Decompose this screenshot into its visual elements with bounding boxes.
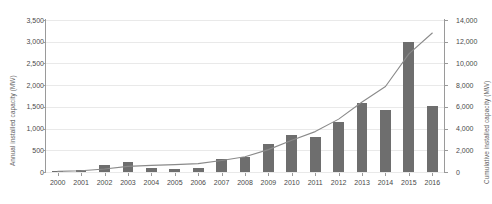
x-axis-tick: 2013	[351, 179, 373, 186]
y-axis-left-tick-mark	[43, 172, 46, 173]
x-axis-tick-mark	[385, 173, 386, 176]
y-axis-left-tick: 1,500	[26, 103, 44, 110]
y-axis-left-tick: 1,000	[26, 125, 44, 132]
x-axis-tick: 2000	[47, 179, 69, 186]
x-axis-tick: 2011	[304, 179, 326, 186]
y-axis-right-tick: 4,000	[456, 125, 474, 132]
y-axis-left-tick-mark	[43, 129, 46, 130]
y-axis-left-tick-mark	[43, 85, 46, 86]
y-axis-right-tick: 8,000	[456, 82, 474, 89]
y-axis-right-tick-labels: 02,0004,0006,0008,00010,00012,00014,000	[448, 0, 482, 204]
x-axis-tick: 2010	[281, 179, 303, 186]
x-axis-tick-mark	[105, 173, 106, 176]
y-axis-left-tick: 3,000	[26, 38, 44, 45]
y-axis-right-title: Cumulative installed capacity (MW)	[483, 81, 490, 184]
x-axis-tick-mark	[339, 173, 340, 176]
y-axis-right-tick-mark	[445, 107, 448, 108]
x-axis-tick-mark	[292, 173, 293, 176]
x-axis-tick: 2003	[117, 179, 139, 186]
x-axis-tick: 2004	[140, 179, 162, 186]
y-axis-left-tick: 2,500	[26, 60, 44, 67]
x-axis-tick: 2007	[211, 179, 233, 186]
x-axis-tick-mark	[362, 173, 363, 176]
x-axis-tick: 2006	[187, 179, 209, 186]
x-axis-tick: 2005	[164, 179, 186, 186]
y-axis-right-tick-mark	[445, 63, 448, 64]
x-axis-tick-mark	[315, 173, 316, 176]
y-axis-left-tick-mark	[43, 42, 46, 43]
y-axis-left-tick-mark	[43, 107, 46, 108]
plot-area	[46, 20, 444, 172]
x-axis-tick: 2002	[94, 179, 116, 186]
y-axis-right-tick-mark	[445, 85, 448, 86]
y-axis-left-tick-mark	[43, 150, 46, 151]
x-axis-tick: 2008	[234, 179, 256, 186]
y-axis-left-tick-mark	[43, 63, 46, 64]
x-axis-tick: 2015	[398, 179, 420, 186]
x-axis-tick-mark	[151, 173, 152, 176]
y-axis-left-tick-mark	[43, 20, 46, 21]
line-series	[46, 20, 444, 172]
x-axis-tick-mark	[175, 173, 176, 176]
x-axis-tick: 2016	[421, 179, 443, 186]
y-axis-right-tick: 14,000	[456, 17, 477, 24]
x-axis-tick-mark	[198, 173, 199, 176]
x-axis-tick-mark	[409, 173, 410, 176]
x-axis-tick: 2014	[374, 179, 396, 186]
y-axis-left-tick-labels: 05001,0001,5002,0002,5003,0003,500	[12, 0, 44, 204]
y-axis-right-tick: 10,000	[456, 60, 477, 67]
y-axis-right-tick-mark	[445, 42, 448, 43]
y-axis-right-tick: 6,000	[456, 103, 474, 110]
y-axis-right-tick: 2,000	[456, 147, 474, 154]
x-axis-tick-mark	[245, 173, 246, 176]
x-axis-tick-mark	[58, 173, 59, 176]
y-axis-right-tick-mark	[445, 150, 448, 151]
y-axis-right-tick-mark	[445, 129, 448, 130]
x-axis-tick-mark	[222, 173, 223, 176]
chart-container: Annual installed capacity (MW) Cumulativ…	[0, 0, 492, 204]
y-axis-right-tick: 12,000	[456, 38, 477, 45]
y-axis-right-tick-mark	[445, 20, 448, 21]
x-axis-tick-mark	[128, 173, 129, 176]
y-axis-left-tick: 2,000	[26, 82, 44, 89]
y-axis-right-tick-mark	[445, 172, 448, 173]
y-axis-left-tick: 3,500	[26, 17, 44, 24]
x-axis-tick-mark	[81, 173, 82, 176]
x-axis-tick-mark	[432, 173, 433, 176]
x-axis-tick: 2009	[257, 179, 279, 186]
y-axis-right-tick: 0	[456, 169, 460, 176]
x-axis-tick-mark	[268, 173, 269, 176]
x-axis-tick: 2012	[328, 179, 350, 186]
x-axis-tick: 2001	[70, 179, 92, 186]
